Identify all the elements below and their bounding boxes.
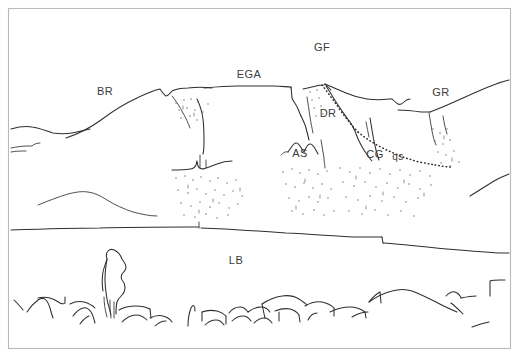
terrace-line-group (11, 222, 509, 253)
gully-wall-br-right (172, 96, 190, 128)
boulder-big-notch (380, 292, 381, 303)
label-lb: LB (229, 254, 243, 266)
boulder-m1 (119, 306, 150, 310)
label-br: BR (97, 85, 113, 97)
monolith-base-striation-1 (104, 297, 107, 317)
figure-root: BR EGA GF GR DR AS CG qs LB (0, 0, 519, 357)
boulder-f1 (330, 307, 365, 312)
skyline-far-left-spur (11, 151, 26, 152)
boulder-c5 (248, 307, 270, 312)
scree-br-gully (175, 98, 208, 120)
boulder-c2 (202, 310, 226, 316)
terrace-edge-left-2 (203, 161, 232, 169)
boulder-l4 (70, 302, 95, 308)
as-left-tail (281, 152, 288, 155)
skyline-notch-right (392, 99, 410, 104)
skyline-far-left (11, 127, 90, 134)
boulder-l2 (27, 299, 53, 319)
boulder-l1 (14, 300, 23, 310)
mid-slope-group (38, 86, 509, 216)
skyline-gf-right-flank (325, 84, 392, 100)
boulder-f5 (490, 280, 505, 296)
boulder-big-left-edge (369, 292, 380, 302)
scree-center-left (175, 175, 242, 218)
geological-sketch-svg: BR EGA GF GR DR AS CG qs LB (0, 0, 519, 357)
lb-terrace-line-right (383, 243, 509, 253)
scree-ticks (183, 106, 452, 213)
skyline-br-hill (66, 87, 212, 138)
label-dr: DR (320, 107, 337, 119)
far-right-lower-slope (470, 174, 509, 196)
scree-gr-gully (432, 128, 459, 166)
label-ega: EGA (237, 68, 262, 80)
boulder-f3-tail (461, 296, 476, 298)
lb-terrace-step (382, 237, 383, 243)
boulder-r4 (305, 302, 334, 308)
skyline-ega-right-drop (291, 87, 301, 116)
terrace-edge-left (172, 161, 203, 170)
boulder-c6 (232, 316, 251, 321)
boulder-f1-side (365, 312, 366, 318)
label-cg: CG (366, 148, 383, 160)
skyline-ega-crest (204, 86, 291, 88)
lb-terrace-line-center (201, 228, 382, 237)
lb-terrace-line-left (11, 227, 199, 230)
label-gf: GF (314, 41, 330, 53)
figure-frame (9, 9, 511, 349)
boulder-l5 (73, 308, 95, 323)
gf-front-spur (301, 116, 309, 140)
boulder-m4 (155, 321, 166, 326)
boulder-c3 (205, 320, 224, 325)
boulder-r1 (262, 296, 307, 305)
scree-cg-qs-fan (339, 167, 432, 216)
boulder-c1 (188, 306, 195, 326)
label-qs: qs (392, 151, 403, 162)
boulder-field-group (14, 250, 505, 328)
boulder-c7 (254, 318, 272, 323)
boulder-r1-left (262, 304, 265, 318)
label-gr: GR (432, 86, 449, 98)
label-as: AS (292, 147, 307, 159)
left-mid-hill (38, 192, 157, 216)
skyline-far-left-lower (11, 143, 40, 148)
monolith-base-striation-2 (110, 300, 111, 318)
gf-spur-inner (307, 97, 313, 133)
boulder-f3 (446, 292, 461, 298)
boulder-r5 (308, 313, 317, 320)
scree-as-gully (282, 168, 334, 215)
cg-spur-inner (366, 122, 369, 137)
boulder-l6 (80, 316, 89, 324)
boulder-big-mound (369, 290, 457, 313)
boulder-m1-side (150, 309, 151, 318)
boulder-c4 (229, 307, 248, 313)
gr-right-gully (443, 116, 447, 134)
boulder-m2 (122, 315, 147, 322)
boulder-m3 (150, 316, 172, 322)
as-right-gully (321, 140, 325, 168)
gully-wall-br-right-main (197, 99, 204, 154)
skyline-gr-saddle (398, 110, 430, 112)
boulder-r2-side (299, 315, 300, 322)
boulder-f6 (472, 322, 489, 327)
